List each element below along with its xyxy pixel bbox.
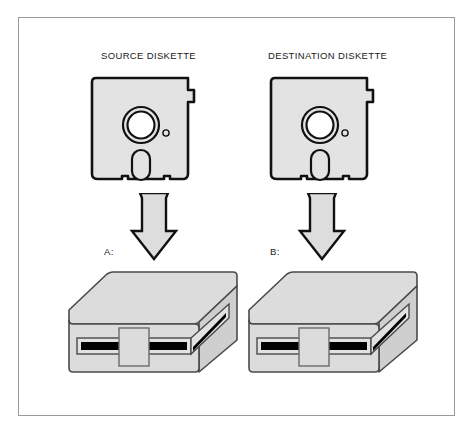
drive-door-latch [119,328,149,366]
index-hole [163,130,169,136]
hub-ring-inner [128,112,155,139]
drive-a-label: A: [104,246,114,257]
index-hole [342,130,348,136]
arrow-b [296,193,348,265]
hub-ring-inner [307,112,334,139]
source-diskette [88,76,204,188]
read-write-slot [132,150,150,180]
down-arrow-shape [300,193,344,259]
arrow-a [128,193,180,265]
diskette-copy-diagram: SOURCE DISKETTE DESTINATION DISKETTE [0,0,471,437]
read-write-slot [311,150,329,180]
drive-b-label: B: [270,246,280,257]
destination-diskette-label: DESTINATION DISKETTE [268,50,387,61]
drive-door-latch [299,328,329,366]
drive-b [243,268,423,378]
destination-diskette [267,76,383,188]
drive-a [63,268,243,378]
source-diskette-label: SOURCE DISKETTE [101,50,196,61]
down-arrow-shape [132,193,176,259]
